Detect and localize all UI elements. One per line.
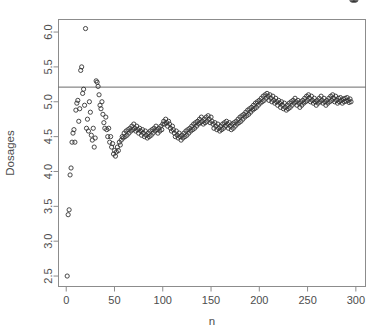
data-point bbox=[89, 133, 93, 137]
data-point bbox=[82, 87, 86, 91]
x-tick-label: 150 bbox=[202, 294, 220, 306]
data-point bbox=[104, 115, 108, 119]
data-point bbox=[75, 101, 79, 105]
data-points bbox=[65, 0, 358, 278]
x-tick-label: 100 bbox=[154, 294, 172, 306]
y-tick-label: 2.5 bbox=[42, 268, 54, 283]
data-point bbox=[78, 107, 82, 111]
data-point bbox=[69, 166, 73, 170]
data-point bbox=[73, 140, 77, 144]
x-tick-label: 50 bbox=[108, 294, 120, 306]
chart-figure: 2.53.03.54.04.55.05.56.0 050100150200250… bbox=[0, 0, 386, 335]
y-tick-label: 6.0 bbox=[42, 24, 54, 39]
y-tick-label: 4.0 bbox=[42, 164, 54, 179]
x-tick-label: 0 bbox=[63, 294, 69, 306]
data-point bbox=[88, 110, 92, 114]
data-point bbox=[81, 91, 85, 95]
data-point bbox=[68, 173, 72, 177]
plot-frame bbox=[59, 20, 366, 287]
data-point bbox=[87, 100, 91, 104]
data-point bbox=[83, 26, 87, 30]
x-tick-label: 200 bbox=[250, 294, 268, 306]
data-point bbox=[82, 103, 86, 107]
y-tick-label: 3.0 bbox=[42, 234, 54, 249]
data-point bbox=[96, 84, 100, 88]
y-axis-title: Dosages bbox=[4, 130, 16, 176]
y-axis-ticks: 2.53.03.54.04.55.05.56.0 bbox=[42, 24, 58, 283]
data-point bbox=[91, 126, 95, 130]
data-point bbox=[92, 145, 96, 149]
data-point bbox=[65, 274, 69, 278]
x-axis-ticks: 050100150200250300 bbox=[63, 287, 365, 306]
scatter-plot-canvas: 2.53.03.54.04.55.05.56.0 050100150200250… bbox=[0, 0, 386, 335]
y-tick-label: 5.5 bbox=[42, 59, 54, 74]
y-tick-label: 4.5 bbox=[42, 129, 54, 144]
data-point bbox=[100, 100, 104, 104]
data-point bbox=[66, 213, 70, 217]
x-tick-label: 250 bbox=[298, 294, 316, 306]
x-axis-title: n bbox=[209, 315, 215, 327]
y-tick-label: 3.5 bbox=[42, 199, 54, 214]
x-tick-label: 300 bbox=[347, 294, 365, 306]
data-point bbox=[76, 98, 80, 102]
data-point bbox=[109, 135, 113, 139]
data-point bbox=[67, 208, 71, 212]
plot-frame-rect bbox=[59, 20, 366, 287]
data-point bbox=[102, 121, 106, 125]
data-point bbox=[77, 119, 81, 123]
data-point bbox=[85, 117, 89, 121]
data-point bbox=[97, 93, 101, 97]
y-tick-label: 5.0 bbox=[42, 94, 54, 109]
